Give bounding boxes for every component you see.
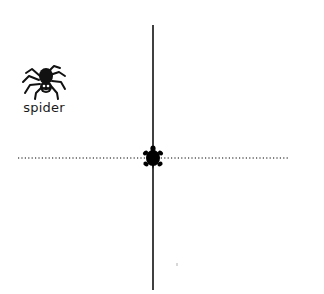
spider-icon <box>20 63 68 101</box>
turtle[interactable] <box>141 145 165 170</box>
sprite-name-label: spider <box>16 100 72 115</box>
turtle-icon <box>141 145 165 170</box>
drawing-canvas[interactable]: spider <box>0 0 324 294</box>
sprite-spider[interactable]: spider <box>16 62 72 120</box>
stray-mark <box>176 263 178 266</box>
